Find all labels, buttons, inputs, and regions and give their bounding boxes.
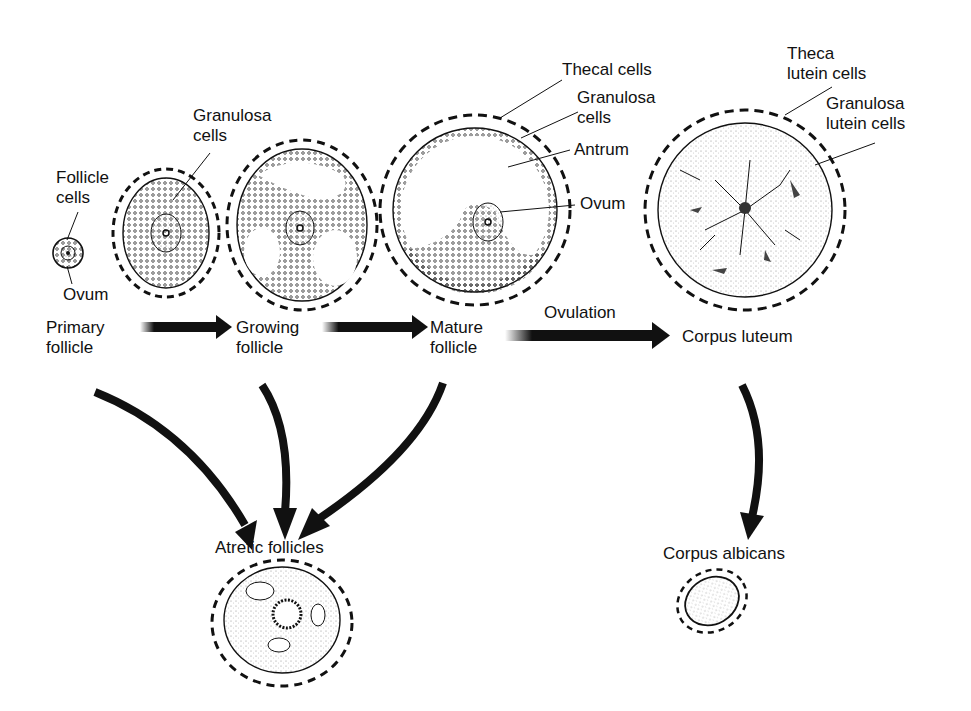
- follicle-cells-line1: Follicle: [56, 168, 109, 188]
- early-growing-follicle: [113, 169, 219, 297]
- annotation-ovum-primary: Ovum: [63, 285, 108, 305]
- mature-follicle: [380, 115, 570, 305]
- stage-mature-line2: follicle: [430, 338, 483, 358]
- stage-growing-follicle: Growing follicle: [236, 318, 299, 358]
- theca-lutein-line2: lutein cells: [787, 64, 866, 84]
- annotation-antrum: Antrum: [574, 140, 629, 160]
- growing-follicle: [227, 140, 377, 310]
- ovulation-label: Ovulation: [544, 303, 616, 323]
- arrow-growing-to-mature: [322, 315, 428, 339]
- stage-primary-follicle: Primary follicle: [46, 318, 105, 358]
- stage-growing-line1: Growing: [236, 318, 299, 338]
- theca-lutein-line1: Theca: [787, 44, 866, 64]
- granulosa-mature-line1: Granulosa: [577, 88, 655, 108]
- stage-primary-line2: follicle: [46, 338, 105, 358]
- stage-growing-line2: follicle: [236, 338, 299, 358]
- stage-atretic-follicles: Atretic follicles: [215, 538, 324, 558]
- stage-corpus-albicans: Corpus albicans: [663, 544, 785, 564]
- atretic-follicle: [212, 560, 352, 686]
- arrow-primary-to-growing: [140, 315, 232, 339]
- granulosa-lutein-line2: lutein cells: [826, 114, 905, 134]
- annotation-granulosa-cells-mature: Granulosa cells: [577, 88, 655, 128]
- primary-follicle: [53, 238, 83, 268]
- annotation-granulosa-cells-growing: Granulosa cells: [193, 106, 271, 146]
- annotation-follicle-cells: Follicle cells: [56, 168, 109, 208]
- annotation-ovum-mature: Ovum: [580, 194, 625, 214]
- arrows-to-atretic: [95, 383, 759, 525]
- annotation-thecal-cells: Thecal cells: [562, 60, 652, 80]
- stage-mature-line1: Mature: [430, 318, 483, 338]
- arrow-ovulation: [505, 322, 670, 349]
- annotation-theca-lutein-cells: Theca lutein cells: [787, 44, 866, 84]
- corpus-luteum: [645, 110, 845, 310]
- stage-mature-follicle: Mature follicle: [430, 318, 483, 358]
- granulosa-mature-line2: cells: [577, 108, 655, 128]
- granulosa-growing-line1: Granulosa: [193, 106, 271, 126]
- annotation-granulosa-lutein-cells: Granulosa lutein cells: [826, 94, 905, 134]
- corpus-albicans: [666, 557, 758, 645]
- stage-corpus-luteum: Corpus luteum: [682, 327, 793, 347]
- granulosa-lutein-line1: Granulosa: [826, 94, 905, 114]
- stage-primary-line1: Primary: [46, 318, 105, 338]
- granulosa-growing-line2: cells: [193, 126, 271, 146]
- follicle-cells-line2: cells: [56, 188, 109, 208]
